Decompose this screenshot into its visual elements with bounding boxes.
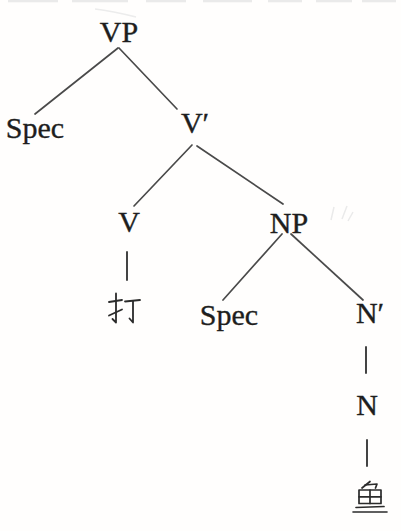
scan-artifact-ghost-marks: [331, 206, 353, 221]
edge-np-nbar: [291, 234, 363, 300]
edge-np-spec: [223, 234, 282, 300]
hanzi-da-glyph: [106, 291, 142, 329]
node-n-bar: N′: [356, 298, 384, 328]
node-v-bar: V′: [181, 108, 209, 138]
node-spec-of-vp: Spec: [6, 113, 64, 143]
figure-canvas: VP Spec V′ V NP Spec N′ N 打 鱼: [0, 0, 401, 531]
edge-vbar-v: [134, 145, 192, 206]
edge-vp-vbar: [119, 48, 177, 109]
edge-vp-spec: [35, 48, 118, 114]
node-vp: VP: [100, 17, 138, 47]
node-np: NP: [270, 208, 308, 238]
edge-vbar-np: [197, 146, 283, 204]
node-v: V: [118, 207, 140, 237]
tree-edges: [0, 0, 401, 531]
node-spec-of-np: Spec: [200, 300, 258, 330]
node-n: N: [356, 390, 378, 420]
hanzi-yu-glyph: [351, 480, 389, 516]
